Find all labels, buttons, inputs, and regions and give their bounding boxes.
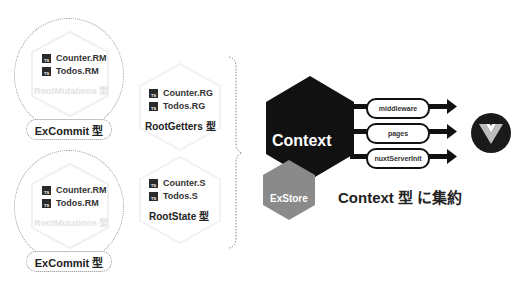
typescript-icon: TS [149, 192, 158, 201]
hook-middleware: middleware [366, 98, 430, 119]
typescript-icon: TS [42, 186, 51, 195]
file-label: Counter.RM [56, 53, 107, 63]
hook-nuxtserverinit: nuxtServerInit [366, 148, 430, 169]
root-mutations-label: RootMutations 型 [34, 216, 109, 229]
file-label: Todos.RM [56, 198, 99, 208]
ts-file-item: TS Todos.S [149, 191, 198, 201]
file-label: Todos.S [163, 191, 198, 201]
file-label: Counter.RG [163, 88, 213, 98]
ts-file-item: TS Todos.RM [42, 198, 99, 208]
ts-file-item: TS Counter.RM [42, 53, 107, 63]
typescript-icon: TS [42, 199, 51, 208]
typescript-icon: TS [149, 102, 158, 111]
file-label: Todos.RM [56, 66, 99, 76]
ts-file-item: TS Counter.S [149, 178, 206, 188]
exstore-label: ExStore [270, 193, 308, 204]
ts-file-item: TS Todos.RG [149, 101, 205, 111]
file-label: Counter.RM [56, 185, 107, 195]
context-caption: Context 型 に集約 [338, 186, 462, 207]
context-hexagon [266, 76, 354, 180]
context-label: Context [272, 132, 332, 150]
curly-bracket [225, 55, 245, 250]
hook-pages: pages [366, 123, 430, 144]
file-label: Todos.RG [163, 101, 205, 111]
ts-file-item: TS Counter.RG [149, 88, 213, 98]
excommit-pill: ExCommit 型 [26, 251, 112, 272]
typescript-icon: TS [42, 67, 51, 76]
ts-file-item: TS Todos.RM [42, 66, 99, 76]
root-state-label: RootState 型 [149, 208, 209, 223]
file-label: Counter.S [163, 178, 206, 188]
context-graphic [258, 74, 358, 234]
typescript-icon: TS [42, 54, 51, 63]
typescript-icon: TS [149, 179, 158, 188]
root-mutations-label: RootMutations 型 [34, 84, 109, 97]
vue-logo-icon [471, 113, 511, 153]
ts-file-item: TS Counter.RM [42, 185, 107, 195]
root-getters-label: RootGetters 型 [145, 118, 216, 133]
excommit-pill: ExCommit 型 [26, 119, 112, 140]
typescript-icon: TS [149, 89, 158, 98]
